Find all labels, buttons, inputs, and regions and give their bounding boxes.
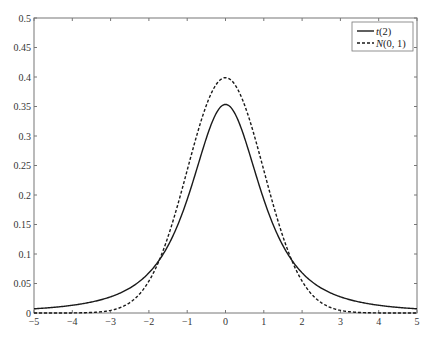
y-tick-label: 0.2 bbox=[19, 190, 32, 201]
y-tick-label: 0.35 bbox=[14, 101, 32, 112]
x-tick-label: −3 bbox=[105, 316, 116, 327]
x-tick-label: 0 bbox=[223, 316, 228, 327]
x-tick-label: −2 bbox=[144, 316, 155, 327]
x-tick-label: −1 bbox=[182, 316, 193, 327]
y-tick-label: 0.1 bbox=[19, 249, 32, 260]
y-tick-label: 0.3 bbox=[19, 131, 32, 142]
y-tick-label: 0.5 bbox=[19, 13, 32, 24]
y-tick-label: 0 bbox=[26, 308, 31, 319]
chart: −5−4−3−2−1012345 00.050.10.150.20.250.30… bbox=[0, 0, 430, 341]
y-tick-label: 0.45 bbox=[14, 42, 32, 53]
y-tick-label: 0.25 bbox=[14, 160, 32, 171]
plot-area bbox=[34, 18, 417, 313]
y-tick-label: 0.15 bbox=[14, 219, 32, 230]
x-tick-label: 1 bbox=[261, 316, 266, 327]
x-tick-label: 4 bbox=[376, 316, 381, 327]
x-tick-label: 2 bbox=[300, 316, 305, 327]
legend: t(2) N(0, 1) bbox=[352, 22, 413, 51]
x-tick-label: 5 bbox=[415, 316, 420, 327]
legend-label-t2: t(2) bbox=[376, 26, 392, 38]
x-tick-label: 3 bbox=[338, 316, 343, 327]
y-tick-label: 0.05 bbox=[14, 278, 32, 289]
y-tick-label: 0.4 bbox=[19, 72, 32, 83]
legend-label-normal: N(0, 1) bbox=[375, 38, 406, 50]
x-tick-label: −4 bbox=[67, 316, 78, 327]
